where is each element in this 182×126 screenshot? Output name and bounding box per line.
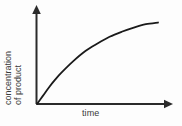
y-axis-label: concentration of product bbox=[0, 0, 34, 104]
y-axis-label-line-1: concentration bbox=[4, 9, 13, 105]
concentration-vs-time-chart: concentration of product time bbox=[0, 0, 182, 126]
x-axis-label: time bbox=[82, 108, 99, 118]
y-axis-label-line-2: of product bbox=[14, 9, 23, 105]
x-axis-arrow-icon bbox=[164, 100, 173, 109]
product-concentration-curve bbox=[37, 23, 158, 104]
